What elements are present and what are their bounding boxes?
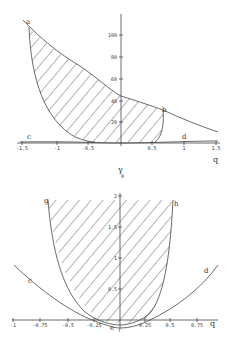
tick-label: 1.5	[211, 145, 220, 151]
tick-label: 0.5	[165, 322, 174, 328]
tick-label: 1	[182, 145, 185, 151]
gamma-axis-label: γ 0	[118, 165, 124, 179]
tick-label: 0.75	[191, 322, 203, 328]
x-axis-label-q: q	[213, 155, 218, 164]
gamma-subscript: 0	[121, 173, 124, 179]
tick-label: 60	[111, 76, 117, 82]
curve-label-g: g	[44, 197, 49, 205]
tick-label: 100	[108, 32, 117, 38]
tick-label: 0.5	[147, 145, 156, 151]
tick-label: -1	[54, 145, 60, 151]
tick-label: -0.25	[86, 322, 101, 328]
curve-label-c: c	[28, 277, 32, 285]
tick-label: 80	[111, 54, 117, 60]
curve-label-b: b	[162, 106, 167, 114]
tick-label: -0.5	[62, 322, 74, 328]
tick-label: 20	[111, 119, 117, 125]
tick-label: -0.5	[82, 145, 94, 151]
top-x-ticks: -1.5 -1 -0.5 0.5 1 1.5	[16, 141, 221, 151]
tick-label: 2	[114, 193, 117, 199]
x-axis-label-q: q	[210, 319, 215, 328]
tick-label: 40	[111, 98, 117, 104]
curve-label-d: d	[204, 267, 209, 275]
tick-label: 0.25	[139, 322, 151, 328]
curve-label-a: a	[26, 18, 30, 26]
curve-label-h: h	[174, 200, 179, 208]
tick-label: -1.5	[16, 145, 28, 151]
tick-label: 0.5	[108, 286, 117, 292]
tick-label: 1	[114, 255, 117, 261]
figure: -1.5 -1 -0.5 0.5 1 1.5 100 80 60 40 20 a…	[0, 0, 233, 349]
curve-label-f: f	[118, 327, 121, 333]
bottom-plot: -1 -0.75 -0.5 -0.25 0.25 0.5 0.75 2 1.5 …	[0, 175, 233, 349]
top-shaded-region	[0, 0, 233, 175]
tick-label: 1.5	[108, 224, 117, 230]
tick-label: -1	[10, 322, 16, 328]
tick-label: -0.75	[32, 322, 47, 328]
curve-label-d: d	[182, 133, 187, 141]
curve-label-c: c	[27, 133, 31, 141]
top-plot: -1.5 -1 -0.5 0.5 1 1.5 100 80 60 40 20 a…	[0, 0, 233, 175]
curve-label-e: e	[110, 324, 114, 332]
